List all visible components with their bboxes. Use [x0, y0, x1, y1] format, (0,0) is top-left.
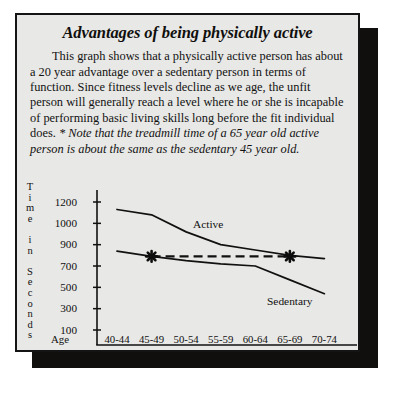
figure-panel: Advantages of being physically active Th…	[15, 13, 360, 352]
x-axis-tick-label: 70-74	[306, 333, 342, 345]
x-axis-tick-labels: Age40-4445-4950-5455-5960-6465-6970-74	[17, 333, 360, 351]
description-paragraph: This graph shows that a physically activ…	[30, 49, 346, 157]
screenshot-stage: Advantages of being physically active Th…	[0, 0, 400, 397]
x-axis-tick-label: 60-64	[237, 333, 273, 345]
description-note-text: * Note that the treadmill time of a 65 y…	[30, 126, 319, 155]
x-axis-tick-label: 40-44	[99, 333, 135, 345]
chart: Time.in.Seconds 12001000900700500300100 …	[17, 180, 360, 352]
x-axis-tick-label: 45-49	[134, 333, 170, 345]
chart-axes	[96, 190, 357, 345]
sedentary-45-49-marker	[146, 251, 157, 262]
active-65-69-marker	[284, 251, 295, 262]
series-label-active: Active	[193, 218, 223, 230]
page-title: Advantages of being physically active	[25, 24, 350, 42]
x-axis-tick-label: 65-69	[272, 333, 308, 345]
chart-plot-svg: ActiveSedentary	[17, 180, 360, 352]
series-label-sedentary: Sedentary	[267, 295, 313, 307]
figure-panel-content: Advantages of being physically active Th…	[17, 15, 358, 350]
x-axis-tick-label: 50-54	[168, 333, 204, 345]
x-axis-title: Age	[43, 333, 77, 345]
series-line-active	[117, 209, 324, 258]
x-axis-tick-label: 55-59	[203, 333, 239, 345]
